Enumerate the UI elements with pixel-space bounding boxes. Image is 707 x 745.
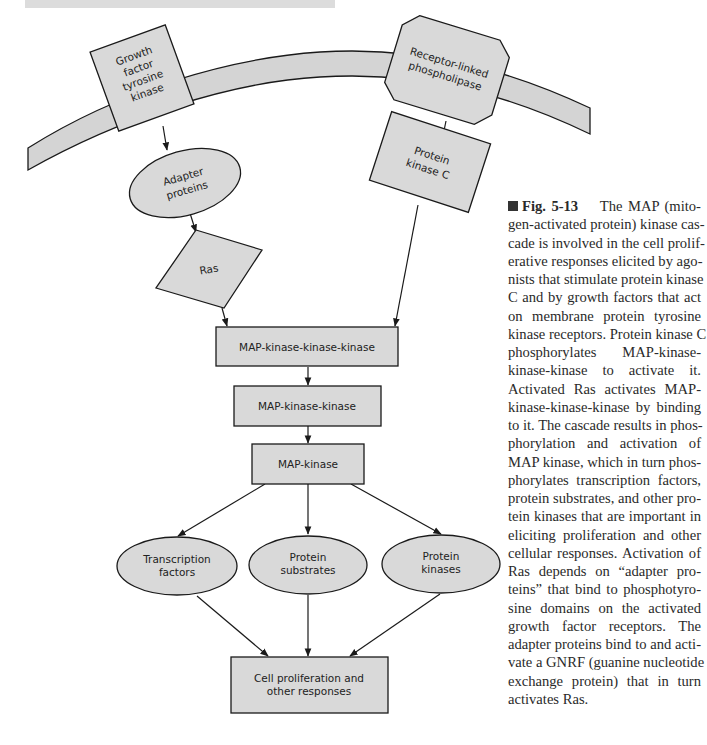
caption-line: vate a GNRF (guanine nucleotide bbox=[508, 653, 701, 671]
node-transcription-factors: Transcription factors bbox=[117, 537, 237, 595]
caption-line: gen-activated protein) kinase cas- bbox=[508, 215, 701, 233]
arrow-tf-to-cell bbox=[197, 596, 268, 656]
caption-line: sine domains on the activated bbox=[508, 599, 701, 617]
node-label: other responses bbox=[267, 685, 351, 697]
caption-line: Activated Ras activates MAP- bbox=[508, 380, 701, 398]
caption-line: kinase-kinase-kinase by binding bbox=[508, 398, 701, 416]
node-label: Protein bbox=[423, 550, 460, 562]
node-cell-proliferation: Cell proliferation and other responses bbox=[231, 657, 388, 713]
caption-line: exchange protein) that in turn bbox=[508, 672, 701, 690]
caption-line: on membrane protein tyrosine bbox=[508, 307, 701, 325]
node-label: Transcription bbox=[142, 553, 211, 565]
caption-line: Ras depends on “adapter pro- bbox=[508, 562, 701, 580]
caption-line: phorylation and activation of bbox=[508, 434, 701, 452]
caption-line: erative responses elicited by ago- bbox=[508, 252, 701, 270]
caption-line: to it. The cascade results in phos- bbox=[508, 416, 701, 434]
caption-line: tein kinases that are important in bbox=[508, 507, 701, 525]
caption-line: kinase-kinase to activate it. bbox=[508, 361, 701, 379]
node-receptor-linked-phospholipase: Receptor-linked phospholipase bbox=[381, 12, 514, 129]
node-label: kinases bbox=[421, 563, 461, 575]
arrow-mapk-to-pk bbox=[351, 484, 441, 534]
caption-line: adapter proteins bind to and acti- bbox=[508, 635, 701, 653]
arrow-gf-to-adapter bbox=[163, 126, 167, 150]
caption-line: eliciting proliferation and other bbox=[508, 526, 701, 544]
caption-line: cade is involved in the cell prolif- bbox=[508, 234, 701, 252]
node-label: Cell proliferation and bbox=[254, 672, 364, 684]
arrow-pk-to-cell bbox=[350, 594, 440, 656]
caption-bullet-icon bbox=[508, 201, 518, 211]
caption-line: C and by growth factors that act bbox=[508, 288, 701, 306]
figure-number: Fig. 5-13 bbox=[522, 198, 578, 214]
caption-line: cellular responses. Activation of bbox=[508, 544, 701, 562]
node-map-kinase-kinase: MAP-kinase-kinase bbox=[234, 386, 381, 426]
arrow-mapk-to-tf bbox=[178, 484, 265, 536]
arrow-ras-to-mapkkk bbox=[222, 308, 227, 326]
caption-line: growth factor receptors. The bbox=[508, 617, 701, 635]
node-label: MAP-kinase bbox=[278, 458, 338, 470]
caption-line: nists that stimulate protein kinase bbox=[508, 270, 701, 288]
caption-line: MAP kinase, which in turn phos- bbox=[508, 453, 701, 471]
caption-line: kinase receptors. Protein kinase C bbox=[508, 325, 701, 343]
node-label: MAP-kinase-kinase bbox=[258, 400, 356, 412]
node-protein-kinases: Protein kinases bbox=[382, 535, 500, 593]
node-protein-substrates: Protein substrates bbox=[249, 536, 367, 594]
node-adapter-proteins: Adapter proteins bbox=[121, 137, 248, 230]
node-map-kinase-kinase-kinase: MAP-kinase-kinase-kinase bbox=[216, 327, 398, 366]
node-map-kinase: MAP-kinase bbox=[252, 444, 364, 484]
arrow-pkc-to-mapkkk bbox=[395, 205, 418, 326]
node-label: substrates bbox=[280, 564, 335, 576]
figure-caption: Fig. 5-13 The MAP (mito- gen-activated p… bbox=[508, 197, 701, 708]
node-protein-kinase-c: Protein kinase C bbox=[369, 112, 490, 213]
node-label: MAP-kinase-kinase-kinase bbox=[239, 341, 375, 353]
node-label: factors bbox=[159, 566, 195, 578]
caption-line: activates Ras. bbox=[508, 690, 701, 708]
caption-line: protein substrates, and other pro- bbox=[508, 489, 701, 507]
caption-line-0: Fig. 5-13 The MAP (mito- bbox=[508, 197, 701, 215]
node-label: Protein bbox=[290, 551, 327, 563]
caption-line: teins” that bind to phosphotyro- bbox=[508, 580, 701, 598]
caption-line: phosphorylates MAP-kinase- bbox=[508, 343, 701, 361]
caption-line: phorylates transcription factors, bbox=[508, 471, 701, 489]
node-ras: Ras bbox=[156, 230, 262, 308]
